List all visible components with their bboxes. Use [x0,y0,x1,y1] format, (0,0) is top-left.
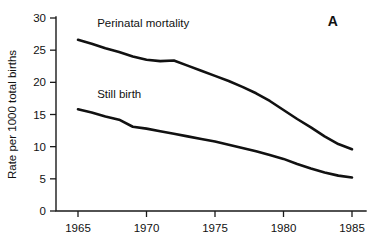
y-axis-title: Rate per 1000 total births [6,50,18,179]
y-axis-tick-label: 0 [40,205,46,217]
series-line-still-birth [78,109,352,177]
line-chart: 05101520253019651970197519801985Rate per… [0,0,379,251]
y-axis-tick-label: 5 [40,173,46,185]
x-axis-tick-label: 1985 [339,222,365,234]
y-axis-tick-label: 15 [33,109,46,121]
x-axis-tick-label: 1975 [202,222,228,234]
y-axis-tick-label: 25 [33,44,46,56]
x-axis-tick-label: 1970 [134,222,160,234]
y-axis-tick-label: 10 [33,141,46,153]
figure-panel-a: 05101520253019651970197519801985Rate per… [0,0,379,251]
panel-label: A [328,13,338,29]
x-axis-tick-label: 1965 [65,222,91,234]
y-axis-tick-label: 30 [33,12,46,24]
series-annotation-perinatal-mortality: Perinatal mortality [97,17,189,29]
y-axis-tick-label: 20 [33,76,46,88]
series-annotation-still-birth: Still birth [97,88,141,100]
x-axis-tick-label: 1980 [271,222,297,234]
